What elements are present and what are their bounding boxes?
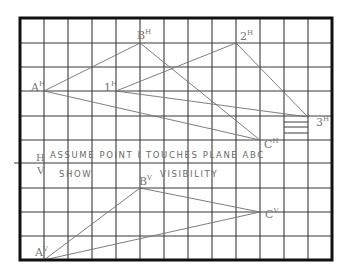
label-c-h: CH bbox=[264, 137, 279, 151]
instruction-visibility: VISIBILITY bbox=[160, 169, 218, 179]
label-a-v: AV bbox=[34, 245, 49, 259]
label-c-v: CV bbox=[265, 207, 279, 221]
label-b-h: BH bbox=[137, 28, 151, 42]
edge-bc-v bbox=[140, 188, 260, 212]
hatch-marks bbox=[284, 122, 308, 133]
drawing-border bbox=[20, 18, 332, 260]
label-b-v: BV bbox=[139, 174, 153, 188]
fold-label-v: V bbox=[36, 165, 45, 176]
label-2-h: 2H bbox=[240, 29, 253, 43]
orthographic-drawing: AH BH CH 1H 2H 3H AV BV CV H V ASSUME PO… bbox=[0, 0, 348, 274]
fold-label-h: H bbox=[36, 152, 45, 163]
edge-23-h bbox=[236, 43, 308, 117]
instruction-show: SHOW bbox=[59, 169, 92, 179]
label-3-h: 3H bbox=[316, 115, 329, 129]
vertical-projection-lines bbox=[44, 188, 260, 260]
label-1-h: 1H bbox=[104, 80, 117, 94]
instruction-line-1: ASSUME POINT I TOUCHES PLANE ABC bbox=[50, 150, 265, 160]
label-a-h: AH bbox=[30, 80, 45, 94]
point-labels-vertical: AV BV CV bbox=[34, 174, 279, 259]
